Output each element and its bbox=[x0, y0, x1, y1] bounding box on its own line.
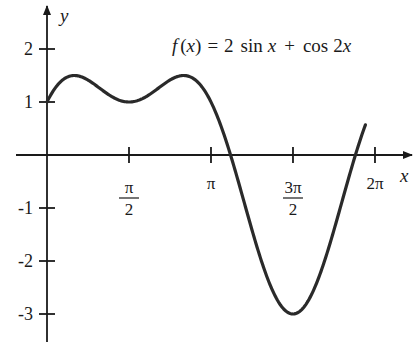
x-axis-label: x bbox=[399, 165, 409, 186]
y-tick-label: 1 bbox=[24, 92, 33, 112]
x-tick-label: π bbox=[207, 174, 216, 193]
function-curve bbox=[47, 76, 365, 315]
function-plot: π2π3π22π 21-1-2-3 y x f(x)=2sinx+cos2x bbox=[0, 0, 419, 363]
y-tick-label: -2 bbox=[18, 251, 33, 271]
y-ticks: 21-1-2-3 bbox=[18, 39, 55, 324]
x-tick-label-den: 2 bbox=[289, 200, 298, 219]
x-tick-label-den: 2 bbox=[125, 200, 134, 219]
x-ticks: π2π3π22π bbox=[119, 147, 384, 219]
x-tick-label: 2π bbox=[366, 174, 384, 193]
x-tick-label-num: π bbox=[125, 178, 134, 197]
y-axis-label: y bbox=[58, 5, 69, 26]
function-label: f(x)=2sinx+cos2x bbox=[172, 35, 352, 57]
y-tick-label: -1 bbox=[18, 198, 33, 218]
y-tick-label: -3 bbox=[18, 304, 33, 324]
x-tick-label-num: 3π bbox=[284, 178, 302, 197]
y-tick-label: 2 bbox=[24, 39, 33, 59]
